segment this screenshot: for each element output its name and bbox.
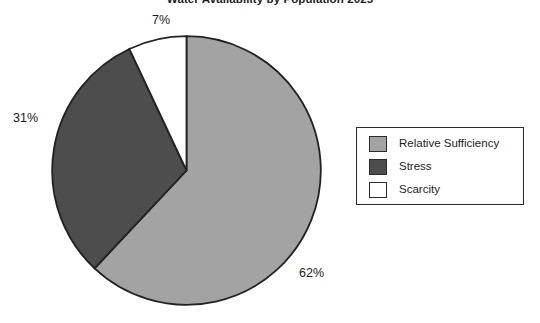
legend-item-label: Stress	[399, 161, 432, 173]
pie-chart-figure: Water Availability by Population 2025 7%…	[0, 0, 540, 323]
legend-swatch-icon	[369, 136, 387, 152]
legend-swatch-icon	[369, 182, 387, 198]
slice-value-label-relative-sufficiency: 62%	[299, 266, 324, 280]
legend-item: Stress	[369, 158, 499, 175]
slice-value-label-scarcity: 7%	[152, 13, 170, 27]
legend-item-label: Relative Sufficiency	[399, 138, 499, 150]
pie-graphic	[51, 35, 322, 306]
legend-item: Relative Sufficiency	[369, 135, 499, 152]
legend-swatch-icon	[369, 159, 387, 175]
legend-list: Relative SufficiencyStressScarcity	[369, 135, 499, 198]
legend-item-label: Scarcity	[399, 184, 440, 196]
legend: Relative SufficiencyStressScarcity	[356, 127, 524, 205]
slice-value-label-stress: 31%	[13, 111, 38, 125]
legend-item: Scarcity	[369, 181, 499, 198]
chart-title: Water Availability by Population 2025	[0, 0, 540, 5]
